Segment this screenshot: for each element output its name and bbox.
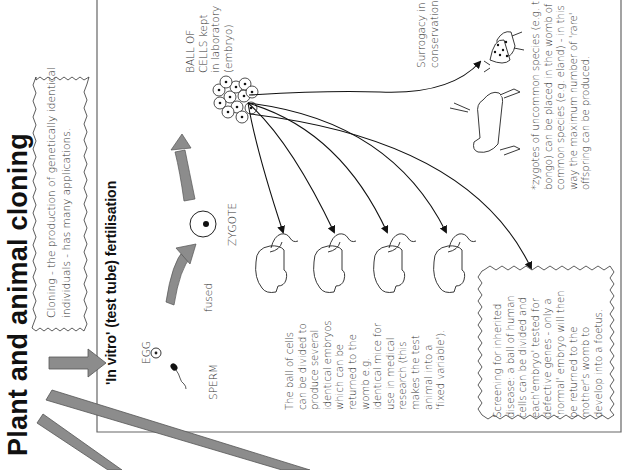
bongo-icon <box>484 32 524 72</box>
label-line: Surrogacy in <box>415 0 428 68</box>
egg-label: EGG <box>140 341 152 364</box>
text-line: identical embryos <box>322 321 335 410</box>
text-line: research (this <box>397 321 410 410</box>
text-line: Screening for inherited <box>492 290 505 418</box>
text-line: cells can be divided and <box>517 290 530 418</box>
ball-of-cells-icon <box>213 76 258 123</box>
sperm-label: SPERM <box>207 364 219 400</box>
arrow-to-mouse-1 <box>248 103 283 232</box>
arrow-to-mouse-3 <box>248 103 387 232</box>
text-line: bongo) can be placed in the womb of a <box>543 0 556 190</box>
text-line: animal into a <box>423 321 436 410</box>
arrow-to-bongo <box>249 62 480 95</box>
grey-curved-arrow-1-icon <box>166 244 196 305</box>
embryo-arrows <box>248 62 531 268</box>
mouse-icon <box>434 234 476 293</box>
text-line: be returned to the <box>568 290 581 418</box>
text-line: 'normal' embryo will then <box>555 290 568 418</box>
section-heading: 'In vitro' (test tube) fertilisation <box>103 181 119 385</box>
text-line: produce several <box>309 321 322 410</box>
fused-label: fused <box>202 283 214 312</box>
grey-bar-2 <box>37 414 122 470</box>
intro-line: individuals - has many applications. <box>59 67 74 318</box>
text-line: common species (e.g. eland) - in this <box>555 0 568 190</box>
mouse-icon <box>374 234 416 293</box>
eland-icon <box>450 89 520 155</box>
zygote-label: ZYGOTE <box>226 203 238 246</box>
mice-description: The ball of cells can be divided to prod… <box>284 321 448 410</box>
intro-line: Cloning - the production of genetically … <box>44 67 59 318</box>
grey-curved-arrow-2-icon <box>171 134 195 201</box>
text-line: makes the test <box>410 321 423 410</box>
text-line: *zygotes of uncommon species (e.g. the <box>530 0 543 190</box>
text-line: The ball of cells <box>284 321 297 410</box>
arrow-to-mouse-2 <box>248 103 334 232</box>
label-line: in laboratory <box>209 6 222 73</box>
label-line: BALL OF <box>184 6 197 73</box>
conservation-note: *zygotes of uncommon species (e.g. the b… <box>530 0 593 190</box>
text-line: which can be <box>334 321 347 410</box>
label-line: (embryo) <box>222 6 235 73</box>
zygote-icon <box>190 211 216 237</box>
text-line: 'fixed variable'). <box>435 321 448 410</box>
text-line: use in medical <box>385 321 398 410</box>
text-line: disease: a ball of human <box>505 290 518 418</box>
egg-icon <box>151 348 161 358</box>
page-title: Plant and animal cloning <box>3 133 34 456</box>
text-line: develop into a foetus. <box>593 290 606 418</box>
text-line: each'embryo' tested for <box>530 290 543 418</box>
text-line: mother's womb to <box>580 290 593 418</box>
label-line: CELLS kept <box>197 6 210 73</box>
text-line: way the maximum number of 'rare' <box>568 0 581 190</box>
text-line: identical mice for <box>372 321 385 410</box>
mouse-icon <box>314 234 356 293</box>
text-line: womb e.g. <box>360 321 373 410</box>
text-line: offspring can be produced. <box>580 0 593 190</box>
sperm-icon <box>169 362 186 389</box>
mouse-icon <box>256 234 298 293</box>
label-line: conservation <box>428 0 441 68</box>
text-line: defective genes - only a <box>542 290 555 418</box>
text-line: can be divided to <box>297 321 310 410</box>
mouse-icons <box>256 234 476 293</box>
surrogacy-label: Surrogacy in conservation <box>415 0 440 68</box>
intro-text: Cloning - the production of genetically … <box>44 67 74 318</box>
grey-bar-1 <box>46 390 310 470</box>
screening-text: Screening for inherited disease: a ball … <box>492 290 605 418</box>
ball-of-cells-label: BALL OF CELLS kept in laboratory (embryo… <box>184 6 234 73</box>
text-line: returned to the <box>347 321 360 410</box>
